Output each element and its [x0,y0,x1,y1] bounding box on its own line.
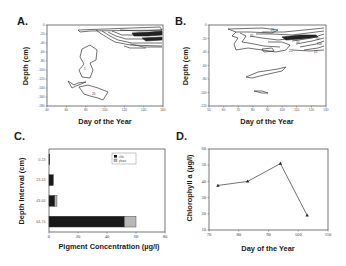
category-label: 23-43 [36,178,45,182]
legend-swatch-phaeo [114,159,117,162]
x-tick-label: 120 [122,108,128,112]
category-label: 64-74 [36,220,45,224]
y-tick-label: 30 [201,195,206,200]
panel-b-ylabel: Depth (cm) [181,46,190,85]
y-tick-label: -120 [38,77,45,81]
x-tick-label: 90 [266,232,271,237]
y-tick-label: 10 [201,227,206,232]
category-label: 43-64 [36,199,45,203]
contour-label: 20 [92,92,96,96]
x-tick-label: 80 [251,108,255,112]
x-tick-label: 20 [76,234,81,239]
bar-chla-23-43 [49,175,53,186]
panel-c-ylabel: Depth Interval (cm) [17,157,26,224]
bar-chla-64-74 [49,216,124,227]
y-tick-label: -140 [38,86,45,90]
x-tick-label: 110 [325,232,332,237]
panel-a-ticks: 4060801001201401600-20-40-60-80-100-120-… [38,23,166,111]
y-tick-label: -120 [200,104,207,108]
x-tick-label: 60 [222,108,226,112]
bar-phaeo-64-74 [124,216,136,227]
y-tick-label: -100 [38,68,45,72]
x-tick-label: 60 [134,234,139,239]
x-tick-label: 80 [163,234,168,239]
y-tick-label: 40 [201,179,206,184]
x-tick-label: 80 [236,232,241,237]
y-tick-label: 20 [201,211,206,216]
x-tick-label: 160 [160,108,166,112]
panel-b-contour: 50607080901001101201300-20-40-60-80-100-… [181,23,329,126]
bar-chla-0-23 [49,154,50,165]
y-tick-label: -20 [202,37,207,41]
contour-label: 50 [316,37,320,41]
x-tick-label: 0 [48,234,51,239]
y-tick-label: -80 [40,59,45,63]
panel-d-frame [209,149,328,230]
x-tick-label: 100 [279,108,285,112]
figure: A. B. C. D. 4060801001201401600-20-40-60… [0,0,346,266]
triangle-marker [279,162,282,165]
panel-c-legend: chla phaeo [112,153,136,164]
y-tick-label: -100 [200,91,207,95]
contour-label: 5 [84,67,86,71]
panel-label-a: A. [17,15,28,27]
panel-a-ylabel: Depth (cm) [21,46,30,85]
panel-c-xlabel: Pigment Concentration (µg/l) [58,242,160,251]
y-tick-label: -40 [40,41,45,45]
x-tick-label: 120 [309,108,315,112]
contour-label: 25 [271,28,275,32]
series-line [218,164,307,216]
x-tick-label: 90 [266,108,270,112]
panel-label-b: B. [175,15,186,27]
legend-swatch-chla [114,155,117,158]
y-tick-label: -80 [202,77,207,81]
panel-b-contours: 25 25 50 50 100 25 25 [228,28,324,93]
x-tick-label: 70 [236,108,240,112]
panel-d-xlabel: Day of the Year [241,244,294,253]
x-tick-label: 40 [105,234,110,239]
category-label: 0-23 [38,158,45,162]
panel-label-d: D. [176,130,187,142]
panel-a-contours: 5 20 [68,27,162,100]
y-tick-label: -180 [38,104,45,108]
x-tick-label: 70 [207,232,212,237]
panel-d-ticks: 708090100110102030405060 [201,146,332,237]
legend-label-chla: chla [119,155,124,159]
y-tick-label: -20 [40,32,45,36]
panel-d-line: 708090100110102030405060 Day of the Year… [185,146,332,253]
panel-d-ylabel: Chlorophyll a (µg/l) [185,154,194,222]
panel-label-c: C. [14,130,25,142]
x-tick-label: 110 [294,108,299,112]
x-tick-label: 60 [65,108,69,112]
contour-label: 25 [289,49,293,53]
x-tick-label: 100 [295,232,303,237]
y-tick-label: -60 [40,50,45,54]
panel-b-xlabel: Day of the Year [240,117,293,126]
bar-chla-43-64 [49,195,55,206]
y-tick-label: 0 [43,23,45,27]
y-tick-label: -60 [202,64,207,68]
legend-label-phaeo: phaeo [119,159,127,163]
panel-a-frame [47,25,163,106]
x-tick-label: 80 [84,108,88,112]
panel-a-xlabel: Day of the Year [78,117,131,126]
y-tick-label: 50 [201,162,206,167]
triangle-marker [305,214,308,217]
contour-label: 25 [314,50,318,54]
panel-c-bars [49,154,136,227]
bar-phaeo-43-64 [55,195,57,206]
panel-a-contour: 4060801001201401600-20-40-60-80-100-120-… [21,23,166,126]
x-tick-label: 140 [141,108,147,112]
y-tick-label: 60 [201,146,206,151]
panel-c-bar: 0204060800-2323-4343-6464-74 chla phaeo … [17,149,168,251]
contour-label: 100 [317,42,322,46]
y-tick-label: 0 [205,23,207,27]
x-tick-label: 40 [45,108,49,112]
y-tick-label: -40 [202,50,207,54]
y-tick-label: -160 [38,95,45,99]
x-tick-label: 50 [207,108,211,112]
x-tick-label: 100 [102,108,108,112]
panel-d-series [216,162,309,217]
x-tick-label: 130 [323,108,329,112]
